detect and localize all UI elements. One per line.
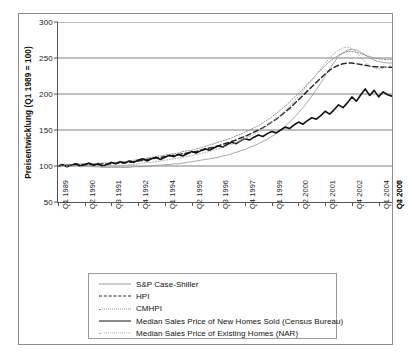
y-axis-tick — [54, 166, 58, 167]
x-axis-tick-label: Q4 1997 — [248, 180, 257, 209]
x-axis-tick — [138, 202, 139, 206]
legend-swatch-cmhpi — [99, 304, 131, 314]
y-axis-tick-label: 250 — [39, 54, 53, 63]
series-line — [58, 89, 392, 167]
legend-label: CMHPI — [136, 304, 162, 313]
chart-legend: S&P Case-Shiller HPI CMHPI Median Sales … — [88, 273, 337, 339]
y-axis-tick-label: 300 — [39, 18, 53, 27]
x-axis-tick — [272, 202, 273, 206]
x-axis-tick-label: Q1 1989 — [61, 180, 70, 209]
x-axis-tick-label: Q2 1995 — [195, 180, 204, 209]
x-axis-tick-label: Q3 1991 — [114, 180, 123, 209]
x-axis-tick — [218, 202, 219, 206]
y-axis-tick — [54, 22, 58, 23]
x-axis-tick-label: Q1 1999 — [275, 180, 284, 209]
series-line — [58, 52, 392, 166]
y-axis-tick-label: 100 — [39, 162, 53, 171]
x-axis-tick — [325, 202, 326, 206]
x-axis-tick — [379, 202, 380, 206]
legend-item: CMHPI — [89, 303, 336, 315]
x-axis-tick-label: Q3 1996 — [221, 180, 230, 209]
x-axis-tick — [58, 202, 59, 206]
x-axis-tick-label: Q2 2000 — [301, 180, 310, 209]
x-axis-tick — [192, 202, 193, 206]
x-axis-tick — [352, 202, 353, 206]
legend-item: Median Sales Price of Existing Homes (NA… — [89, 327, 336, 339]
x-axis-tick-label: Q1 2004 — [382, 180, 391, 209]
legend-label: Median Sales Price of Existing Homes (NA… — [136, 329, 298, 338]
y-axis-tick-label: 150 — [39, 126, 53, 135]
x-axis-tick-label: Q1 1994 — [168, 180, 177, 209]
x-axis-tick — [165, 202, 166, 206]
y-axis-title: Preisentwicklung (Q1 1989 = 100) — [22, 22, 34, 202]
series-line — [58, 63, 392, 166]
legend-swatch-new-homes — [99, 316, 131, 326]
x-axis-tick-label: Q4 2002 — [355, 180, 364, 209]
legend-label: HPI — [136, 292, 150, 301]
y-axis-tick — [54, 58, 58, 59]
x-axis-tick — [245, 202, 246, 206]
x-axis-tick — [298, 202, 299, 206]
plot-svg — [58, 22, 392, 202]
x-axis-tick-label: Q2 1990 — [88, 180, 97, 209]
plot-area: 50100150200250300Q1 1989Q2 1990Q3 1991Q4… — [57, 22, 392, 203]
y-axis-title-text: Preisentwicklung (Q1 1989 = 100) — [24, 46, 33, 179]
legend-label: Median Sales Price of New Homes Sold (Ce… — [136, 317, 343, 326]
x-axis-tick — [85, 202, 86, 206]
legend-item: S&P Case-Shiller — [89, 278, 336, 290]
y-axis-tick-label: 50 — [44, 198, 53, 207]
legend-item: Median Sales Price of New Homes Sold (Ce… — [89, 315, 336, 327]
x-axis-tick — [111, 202, 112, 206]
legend-swatch-sp-case-shiller — [99, 279, 131, 289]
legend-swatch-existing-homes — [99, 328, 131, 338]
series-line — [58, 49, 392, 167]
x-axis-tick-label: Q4 2007 — [395, 180, 404, 209]
legend-swatch-hpi — [99, 291, 131, 301]
y-axis-tick — [54, 130, 58, 131]
x-axis-tick-label: Q3 2001 — [328, 180, 337, 209]
y-axis-tick — [54, 94, 58, 95]
legend-label: S&P Case-Shiller — [136, 280, 198, 289]
legend-item: HPI — [89, 290, 336, 302]
y-axis-tick-label: 200 — [39, 90, 53, 99]
x-axis-tick-label: Q4 1992 — [141, 180, 150, 209]
